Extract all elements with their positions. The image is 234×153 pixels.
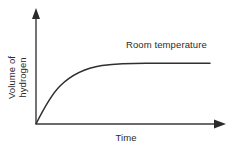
x-axis-label: Time [106, 133, 146, 144]
y-axis-label: Volume of hydrogen [0, 46, 34, 108]
room-temperature-curve [36, 63, 210, 124]
series-annotation-room-temperature: Room temperature [126, 40, 207, 51]
hydrogen-volume-vs-time-chart: Volume of hydrogen Time Room temperature [0, 0, 234, 153]
chart-canvas [0, 0, 234, 153]
y-axis-arrowhead [32, 8, 40, 19]
y-axis-label-line2: hydrogen [17, 47, 28, 109]
y-axis-label-line1: Volume of [7, 47, 18, 109]
x-axis-arrowhead [214, 120, 226, 129]
